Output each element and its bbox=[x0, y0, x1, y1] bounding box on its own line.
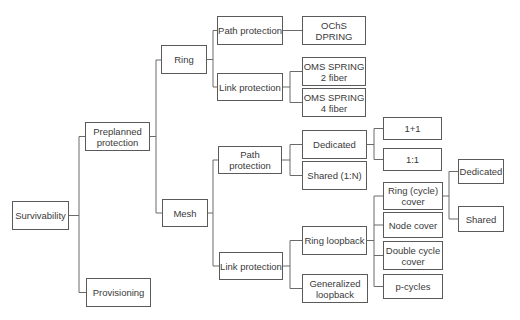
node-ring-cycle-cover: Ring (cycle) cover bbox=[383, 182, 443, 210]
node-oms-spring-4-fiber: OMS SPRING 4 fiber bbox=[302, 88, 366, 117]
node-ring-loopback: Ring loopback bbox=[302, 226, 367, 255]
node-mesh-link-protection: Link protection bbox=[219, 252, 283, 280]
node-ring-path-protection: Path protection bbox=[217, 16, 283, 45]
node-ring-link-protection: Link protection bbox=[217, 73, 283, 101]
node-p-cycles: p-cycles bbox=[383, 274, 443, 299]
survivability-taxonomy-diagram: Survivability Preplanned protection Prov… bbox=[0, 0, 520, 320]
node-oms-spring-2-fiber: OMS SPRING 2 fiber bbox=[302, 57, 366, 86]
node-ochs-dpring: OChS DPRING bbox=[302, 16, 366, 45]
node-cover-dedicated: Dedicated bbox=[458, 159, 504, 184]
node-provisioning: Provisioning bbox=[86, 278, 151, 307]
node-double-cycle-cover: Double cycle cover bbox=[383, 241, 443, 270]
node-cover-shared: Shared bbox=[458, 206, 504, 232]
node-dedicated: Dedicated bbox=[302, 130, 367, 159]
node-1-to-1: 1:1 bbox=[383, 148, 442, 171]
node-node-cover: Node cover bbox=[383, 212, 443, 238]
node-generalized-loopback: Generalized loopback bbox=[302, 274, 368, 303]
node-mesh: Mesh bbox=[162, 199, 208, 227]
node-mesh-path-protection: Path protection bbox=[218, 146, 282, 174]
node-preplanned-protection: Preplanned protection bbox=[85, 122, 150, 151]
node-1-plus-1: 1+1 bbox=[383, 117, 442, 140]
node-survivability: Survivability bbox=[12, 201, 69, 230]
node-shared-1n: Shared (1:N) bbox=[302, 161, 367, 190]
node-ring: Ring bbox=[161, 45, 207, 74]
